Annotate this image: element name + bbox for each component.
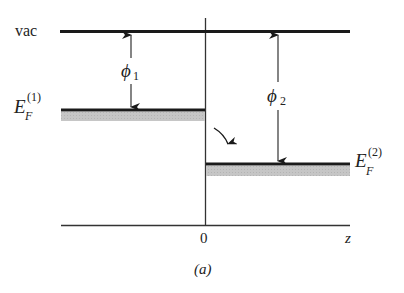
fermi-1-label-sup: (1) (27, 90, 41, 104)
fermi-1-label-sub: F (24, 109, 33, 123)
fermi-band-1 (61, 112, 205, 121)
figure-caption: (a) (194, 261, 212, 278)
fermi-2-label-sub: F (365, 164, 374, 178)
vacuum-label: vac (15, 22, 37, 39)
electron-transfer-arrow (214, 128, 228, 144)
phi2-subscript: 2 (280, 94, 286, 108)
origin-label: 0 (200, 230, 208, 246)
energy-level-diagram: vac E F (1) E F (2) ϕ 1 ϕ 2 0 z (a) (0, 0, 404, 293)
phi2-symbol: ϕ (267, 85, 277, 106)
phi1-subscript: 1 (133, 69, 139, 83)
fermi-2-label-sup: (2) (368, 145, 382, 159)
z-axis-label: z (344, 230, 351, 246)
fermi-band-2 (206, 166, 350, 176)
phi1-symbol: ϕ (121, 60, 131, 81)
